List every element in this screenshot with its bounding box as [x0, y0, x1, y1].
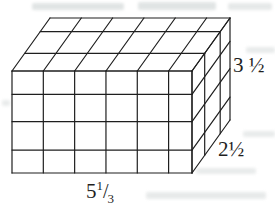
- side-face-depth-grid-line: [192, 41, 230, 94]
- top-face-depth-grid-line: [12, 18, 50, 71]
- width-dimension-label: 51/3: [86, 181, 114, 202]
- top-face-depth-grid-line: [43, 18, 81, 71]
- prism-figure: 3 ½ 2½ 51/3: [0, 0, 275, 205]
- top-face-depth-grid-line: [137, 18, 175, 71]
- width-whole-number: 5: [86, 179, 97, 203]
- depth-dimension-label: 2½: [218, 139, 244, 160]
- top-face-depth-grid-line: [75, 18, 113, 71]
- width-fraction-denominator: 3: [108, 191, 115, 205]
- side-face-depth-grid-line: [192, 69, 230, 122]
- height-dimension-label: 3 ½: [233, 55, 265, 76]
- top-face-depth-grid-line: [169, 18, 207, 71]
- rectangular-prism-diagram: [0, 0, 275, 205]
- top-face-depth-grid-line: [106, 18, 144, 71]
- side-face-depth-grid-line: [192, 18, 230, 71]
